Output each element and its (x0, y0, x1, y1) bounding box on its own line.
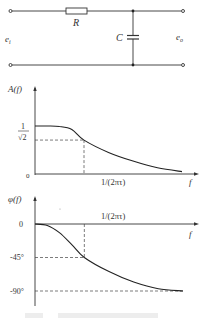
phase-x-arrow (194, 222, 199, 225)
amp-y-label: A(f) (7, 84, 22, 94)
phase-tick-0: 0 (19, 220, 23, 229)
resistor-label: R (72, 17, 79, 28)
phase-y-label: φ(f) (8, 194, 21, 204)
terminal-in-bottom (9, 64, 12, 67)
input-label: ei (5, 34, 11, 45)
terminal-in-top (9, 10, 12, 13)
phase-tick-45: -45° (10, 253, 24, 262)
junction-top (132, 10, 135, 13)
phase-x-marker-label: 1/(2πτ) (101, 211, 125, 221)
phase-x-label: f (189, 229, 193, 239)
amp-y-marker-den: √2 (18, 133, 26, 142)
phase-tick-90: -90° (10, 287, 24, 296)
amp-x-arrow (194, 172, 199, 175)
amp-origin-label: 0 (26, 172, 30, 180)
amplitude-plot: A(f) 1 √2 0 1/(2πτ) f (7, 84, 199, 187)
terminal-out-top (182, 10, 185, 13)
resistor (66, 8, 87, 14)
amp-curve (35, 126, 182, 172)
amp-y-arrow (33, 86, 36, 91)
rc-filter-figure: R C ei eo A(f) 1 √2 0 1/(2πτ) f φ(f) 0 -… (0, 0, 204, 318)
figure-caption (25, 313, 158, 318)
junction-bottom (132, 64, 135, 67)
terminal-out-bottom (182, 64, 185, 67)
stray-dot (59, 208, 60, 209)
output-label: eo (176, 32, 183, 43)
amp-x-label: f (189, 177, 193, 187)
rc-circuit (9, 8, 185, 67)
capacitor-label: C (116, 32, 123, 43)
phase-plot: φ(f) 0 -45° -90° 1/(2πτ) f (8, 194, 199, 306)
phase-y-arrow (33, 196, 36, 201)
amp-y-marker-num: 1 (21, 122, 25, 131)
amp-x-marker-label: 1/(2πτ) (101, 177, 125, 187)
